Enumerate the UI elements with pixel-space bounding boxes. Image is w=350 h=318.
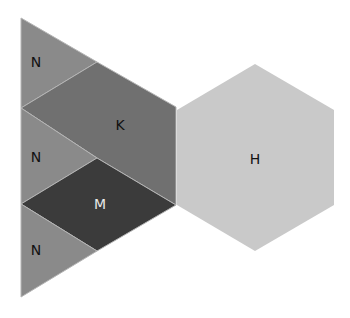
label-n-top: N (31, 54, 41, 70)
shapes-diagram: N K N M N H (0, 0, 350, 318)
label-n-middle: N (31, 149, 41, 165)
label-m: M (94, 196, 106, 212)
label-n-bottom: N (31, 242, 41, 258)
label-k: K (115, 117, 125, 133)
label-h: H (250, 151, 261, 167)
